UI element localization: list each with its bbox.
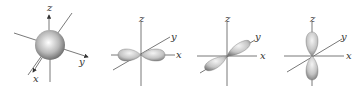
x-label: x <box>346 50 352 61</box>
s-sphere <box>35 30 65 60</box>
z-label: z <box>224 13 231 24</box>
py-orbital: z y x <box>197 13 266 86</box>
lobe-left <box>118 49 141 61</box>
x-label: x <box>260 50 266 61</box>
px-orbital: z y x <box>111 13 182 86</box>
x-label: x <box>176 49 182 60</box>
orbital-diagrams: z y x z y x z y x z y x <box>0 0 358 90</box>
z-label: z <box>309 13 316 24</box>
y-label: y <box>78 56 85 67</box>
y-label: y <box>254 31 261 42</box>
pz-orbital: z y x <box>284 13 352 86</box>
x-axis <box>33 58 42 72</box>
lobe-top <box>306 32 318 56</box>
y-label: y <box>340 31 347 42</box>
y-label: y <box>170 31 177 42</box>
lobe-back <box>227 40 250 56</box>
z-label: z <box>46 2 53 13</box>
x-label: x <box>33 73 39 84</box>
lobe-right <box>141 49 165 61</box>
z-label: z <box>138 13 145 24</box>
lobe-front <box>205 56 227 71</box>
s-orbital: z y x <box>14 2 88 84</box>
